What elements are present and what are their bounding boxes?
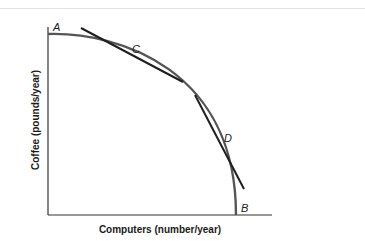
tangent-line-c (81, 28, 183, 82)
point-label-b: B (241, 202, 248, 214)
point-label-d: D (224, 132, 232, 144)
point-label-c: C (132, 43, 140, 55)
ppf-diagram: A B C D Computers (number/year) Coffee (… (0, 0, 365, 241)
y-axis-label: Coffee (pounds/year) (30, 70, 41, 170)
point-label-a: A (52, 21, 60, 33)
x-axis-label: Computers (number/year) (99, 224, 221, 235)
tangent-line-d (195, 95, 244, 189)
